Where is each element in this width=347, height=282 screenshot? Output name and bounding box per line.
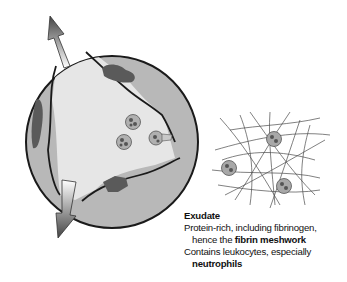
neutrophil [222,161,237,176]
neutrophil [126,115,141,130]
caption-line-2-prefix: hence the [192,234,235,245]
neutrophil [277,179,292,194]
caption-title: Exudate [184,210,317,222]
exudate-caption: Exudate Protein-rich, including fibrinog… [184,210,317,270]
neutrophil [117,135,132,150]
caption-line-1: Protein-rich, including fibrinogen, [184,222,317,234]
caption-line-2: hence the fibrin meshwork [184,234,317,246]
caption-neutrophils: neutrophils [192,258,242,269]
caption-fibrin-meshwork: fibrin meshwork [235,234,306,245]
fibrin-meshwork [212,112,330,208]
arrow-up-icon [48,16,70,68]
vessel-cross-section [20,50,198,228]
neutrophil [267,132,282,147]
caption-line-4: neutrophils [184,258,317,270]
caption-line-3: Contains leukocytes, especially [184,246,317,258]
